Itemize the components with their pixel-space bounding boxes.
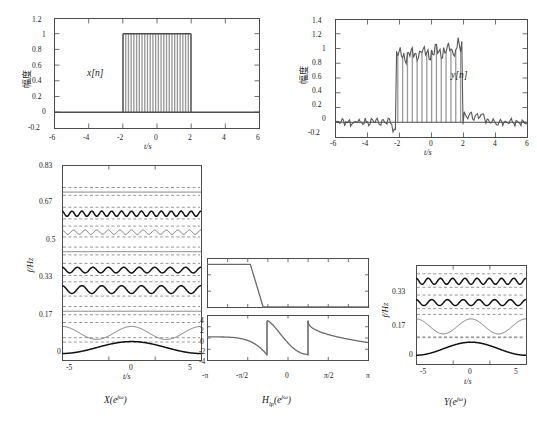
tick-label: 0.6 (32, 61, 41, 70)
tick-label: 0 (42, 107, 46, 116)
tick-label: 1.2 (32, 15, 41, 24)
bottom-right-ylabel: f/Hz (380, 290, 390, 330)
tick-label: 0 (285, 371, 289, 380)
tick-label: π/2 (324, 371, 334, 380)
bottom-left-ylabel-text: f/Hz (25, 258, 35, 273)
top-left-xlabel-text: t/s (144, 142, 152, 151)
tick-label: 0 (429, 139, 433, 148)
bottom-right-caption: Y(ejω) (444, 395, 466, 407)
tick-label: 6 (256, 133, 260, 142)
tick-label: 0 (409, 350, 413, 359)
tick-label: -2 (117, 133, 123, 142)
tick-label: 0.67 (39, 197, 52, 206)
top-right-inner-label: y[n] (451, 70, 467, 80)
tick-label: -2 (199, 347, 205, 356)
tick-label: 4 (493, 139, 497, 148)
tick-label: 0.4 (32, 76, 41, 85)
tick-label: 0 (129, 363, 133, 372)
tick-label: -4 (199, 357, 205, 366)
panel-bottom-left: f/Hz 0.83 0.67 0.5 0.33 0.17 0 -5 0 5 t/… (22, 160, 222, 425)
tick-label: -5 (420, 367, 426, 376)
tick-label: 2 (188, 133, 192, 142)
caption-close: ) (124, 395, 127, 405)
bottom-right-xlabel: t/s (464, 377, 472, 386)
tick-label: 1.2 (312, 30, 321, 39)
tick-label: 0.8 (32, 45, 41, 54)
top-right-xlabel: t/s (424, 148, 432, 157)
bottom-left-xlabel: t/s (123, 372, 131, 381)
tick-label: 2 (461, 139, 465, 148)
panel-bottom-right: f/Hz 0.33 0.17 0 -5 0 5 t/s Y(ejω) (378, 258, 537, 427)
tick-label: 0 (57, 347, 61, 356)
bottom-right-ylabel-text: f/Hz (380, 303, 390, 318)
tick-label: 0.17 (392, 321, 405, 330)
bottom-left-xlabel-text: t/s (123, 372, 131, 381)
bottom-left-ylabel: f/Hz (25, 245, 35, 285)
top-left-xlabel: t/s (144, 142, 152, 151)
tick-label: π (366, 371, 370, 380)
tick-label: -0.2 (308, 128, 320, 137)
tick-label: 0.2 (312, 100, 321, 109)
tick-label: 0.33 (39, 272, 52, 281)
tick-label: 4 (200, 316, 204, 325)
tick-label: 0.5 (46, 235, 55, 244)
tick-label: 2 (200, 326, 204, 335)
caption-close: ) (288, 395, 291, 405)
bottom-right-xlabel-text: t/s (464, 377, 472, 386)
top-left-ylabel: 幅度 (20, 59, 33, 99)
tick-label: -6 (49, 133, 55, 142)
tick-label: 0 (200, 337, 204, 346)
tick-label: -2 (394, 139, 400, 148)
panel-top-right: 幅度 1.4 1.2 1 0.8 0.6 0.4 0.2 0 -0.2 (296, 6, 537, 161)
caption-base: X(e (104, 395, 117, 405)
tick-label: -π (202, 371, 208, 380)
tick-label: 0.4 (312, 86, 321, 95)
tick-label: -6 (330, 139, 336, 148)
tick-label: 6 (525, 139, 529, 148)
tick-label: 4 (222, 133, 226, 142)
tick-label: 5 (188, 363, 192, 372)
tick-label: 1 (322, 44, 326, 53)
tick-label: 0 (322, 114, 326, 123)
tick-label: -5 (66, 363, 72, 372)
panel-middle: 4 2 0 -2 -4 -π -π/2 0 π/2 π Hlp(ejω) (200, 258, 380, 427)
middle-caption: Hlp(ejω) (262, 393, 291, 407)
tick-label: 0 (154, 133, 158, 142)
tick-label: -π/2 (236, 371, 248, 380)
tick-label: 0.33 (392, 287, 405, 296)
top-right-ylabel: 幅度 (297, 55, 310, 95)
tick-label: 0.83 (39, 161, 52, 170)
caption-close: ) (463, 397, 466, 407)
tick-label: 0.6 (312, 72, 321, 81)
tick-label: 5 (514, 367, 518, 376)
tick-label: 0.8 (312, 58, 321, 67)
panel-top-left: 幅度 1.2 1 0.8 0.6 0.4 0.2 0 -0.2 (14, 6, 264, 156)
caption-base: Y(e (444, 397, 457, 407)
tick-label: -4 (362, 139, 368, 148)
tick-label: 0.17 (39, 310, 52, 319)
bottom-left-caption: X(ejω) (104, 393, 127, 405)
tick-label: -4 (83, 133, 89, 142)
top-left-inner-label: x[n] (87, 68, 103, 78)
top-right-xlabel-text: t/s (424, 148, 432, 157)
tick-label: 0.2 (32, 92, 41, 101)
tick-label: 1.4 (312, 16, 321, 25)
tick-label: 1 (42, 30, 46, 39)
caption-base: H (262, 395, 269, 405)
tick-label: -0.2 (28, 123, 40, 132)
tick-label: 0 (468, 367, 472, 376)
